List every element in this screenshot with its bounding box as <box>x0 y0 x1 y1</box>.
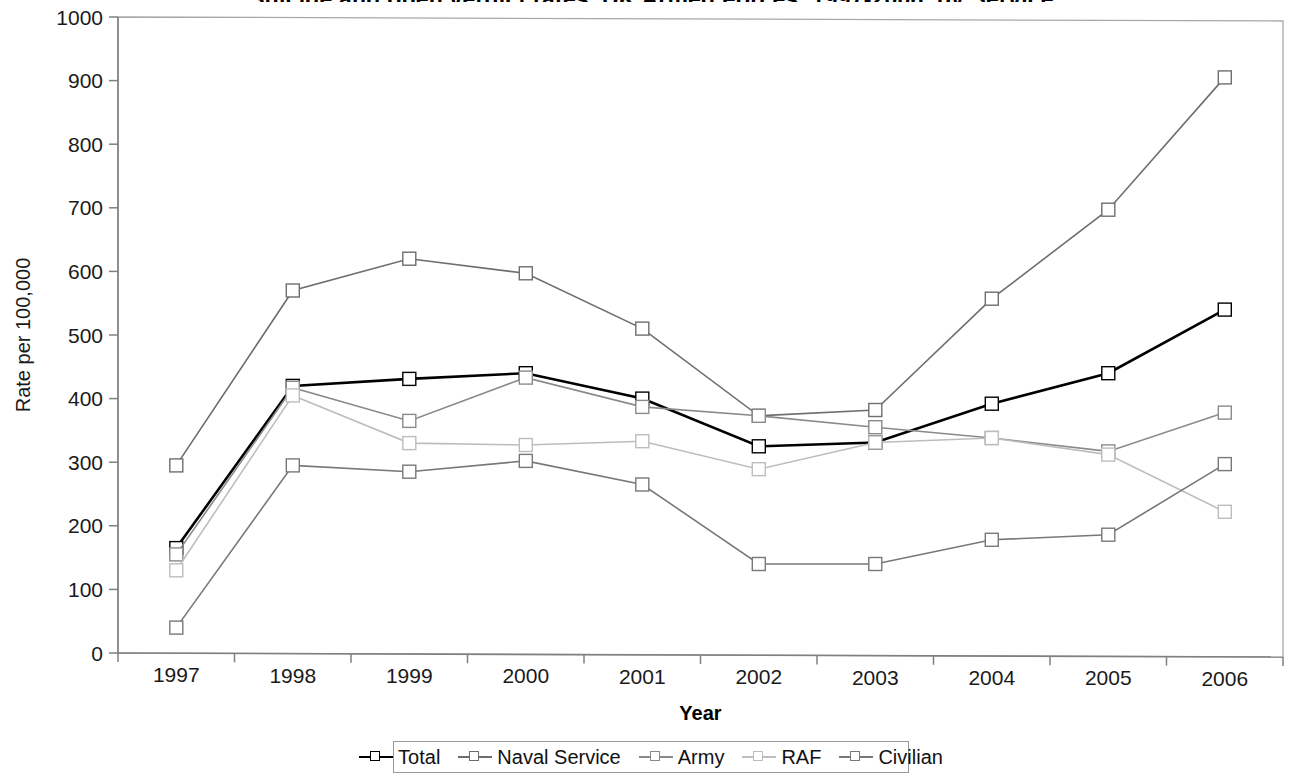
x-tick-label: 2000 <box>502 664 549 687</box>
data-point-marker <box>519 371 532 384</box>
data-point-marker <box>869 558 882 571</box>
data-point-marker <box>1218 505 1231 518</box>
data-point-marker <box>403 252 416 265</box>
data-point-marker <box>636 322 649 335</box>
y-tick-label: 0 <box>91 642 103 665</box>
data-point-marker <box>1218 303 1231 316</box>
series-total <box>170 303 1232 554</box>
legend-item-total[interactable]: Total <box>350 747 449 767</box>
legend-item-label: Naval Service <box>497 747 620 767</box>
chart-page: Suicide and open verdict rates, UK Armed… <box>0 0 1303 778</box>
data-point-marker <box>1218 458 1231 471</box>
plot-area: 01002003004005006007008009001000 1997199… <box>0 0 1303 778</box>
y-tick-label: 1000 <box>56 6 103 29</box>
data-point-marker <box>985 432 998 445</box>
y-axis-title: Rate per 100,000 <box>12 258 34 413</box>
x-tick-label: 2005 <box>1085 666 1132 689</box>
legend-item-label: Total <box>398 747 440 767</box>
data-point-marker <box>636 435 649 448</box>
data-point-marker <box>752 440 765 453</box>
y-tick-label: 500 <box>68 324 103 347</box>
data-point-marker <box>403 414 416 427</box>
x-tick-label: 2003 <box>852 666 899 689</box>
series-army <box>170 371 1232 561</box>
data-point-marker <box>170 548 183 561</box>
legend-item-label: Army <box>678 747 725 767</box>
data-point-marker <box>170 459 183 472</box>
data-point-marker <box>869 404 882 417</box>
series-civilian <box>170 454 1232 634</box>
legend-marker-icon <box>742 750 776 764</box>
series-raf <box>170 389 1232 577</box>
data-point-marker <box>286 459 299 472</box>
y-tick-label: 600 <box>68 260 103 283</box>
data-point-marker <box>519 267 532 280</box>
y-tick-label: 800 <box>68 133 103 156</box>
x-tick-label: 2002 <box>735 665 782 688</box>
series-group <box>170 71 1232 634</box>
y-tick-label: 100 <box>68 578 103 601</box>
data-point-marker <box>519 439 532 452</box>
data-point-marker <box>752 409 765 422</box>
x-tick-label: 1997 <box>153 663 200 686</box>
legend-marker-icon <box>839 750 873 764</box>
x-tick-label: 2001 <box>619 665 666 688</box>
y-axis-ticks: 01002003004005006007008009001000 <box>56 6 118 665</box>
data-point-marker <box>985 292 998 305</box>
legend-marker-icon <box>359 750 393 764</box>
data-point-marker <box>1102 448 1115 461</box>
x-axis-ticks: 1997199819992000200120022003200420052006 <box>118 653 1283 690</box>
data-point-marker <box>985 533 998 546</box>
x-tick-label: 1999 <box>386 664 433 687</box>
data-point-marker <box>1102 367 1115 380</box>
data-point-marker <box>869 421 882 434</box>
x-tick-label: 2006 <box>1201 667 1248 690</box>
data-point-marker <box>985 397 998 410</box>
data-point-marker <box>170 564 183 577</box>
legend-item-label: RAF <box>781 747 821 767</box>
data-point-marker <box>636 478 649 491</box>
data-point-marker <box>752 463 765 476</box>
axes <box>118 17 1283 657</box>
data-point-marker <box>403 465 416 478</box>
y-tick-label: 700 <box>68 196 103 219</box>
y-tick-label: 900 <box>68 69 103 92</box>
legend-item-naval-service[interactable]: Naval Service <box>449 747 629 767</box>
x-axis-title: Year <box>679 702 721 724</box>
legend-item-raf[interactable]: RAF <box>733 747 830 767</box>
y-tick-label: 300 <box>68 451 103 474</box>
line-chart-svg: 01002003004005006007008009001000 1997199… <box>0 0 1303 740</box>
y-tick-label: 200 <box>68 514 103 537</box>
x-tick-label: 2004 <box>968 666 1015 689</box>
legend-marker-icon <box>639 750 673 764</box>
chart-legend: TotalNaval ServiceArmyRAFCivilian <box>393 741 909 773</box>
data-point-marker <box>286 389 299 402</box>
x-tick-label: 1998 <box>269 664 316 687</box>
data-point-marker <box>403 372 416 385</box>
data-point-marker <box>403 437 416 450</box>
legend-item-army[interactable]: Army <box>630 747 734 767</box>
plot-border <box>118 17 1283 657</box>
data-point-marker <box>170 621 183 634</box>
data-point-marker <box>869 436 882 449</box>
data-point-marker <box>1102 203 1115 216</box>
data-point-marker <box>636 400 649 413</box>
data-point-marker <box>1102 528 1115 541</box>
legend-item-label: Civilian <box>878 747 942 767</box>
data-point-marker <box>752 558 765 571</box>
data-point-marker <box>286 284 299 297</box>
legend-marker-icon <box>458 750 492 764</box>
data-point-marker <box>1218 71 1231 84</box>
legend-item-civilian[interactable]: Civilian <box>830 747 951 767</box>
y-tick-label: 400 <box>68 387 103 410</box>
data-point-marker <box>519 454 532 467</box>
data-point-marker <box>1218 406 1231 419</box>
